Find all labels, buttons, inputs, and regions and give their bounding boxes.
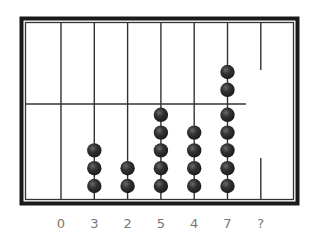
abacus-bead-upper: [220, 83, 234, 97]
abacus-bead-upper: [220, 65, 234, 79]
abacus-bead: [154, 108, 168, 122]
abacus-bead: [87, 179, 101, 193]
abacus-bead: [220, 161, 234, 175]
abacus-bead: [220, 125, 234, 139]
abacus-bead: [187, 125, 201, 139]
abacus-bead: [154, 143, 168, 157]
abacus-bead: [87, 161, 101, 175]
abacus-bead: [120, 179, 134, 193]
abacus-bead: [154, 179, 168, 193]
abacus-bead: [187, 179, 201, 193]
abacus-bead: [187, 143, 201, 157]
abacus-bead: [220, 143, 234, 157]
column-label: 2: [123, 216, 131, 231]
column-label: 0: [57, 216, 65, 231]
abacus-bead: [220, 108, 234, 122]
abacus-bead: [154, 125, 168, 139]
column-label: 3: [90, 216, 98, 231]
abacus-bead: [154, 161, 168, 175]
abacus-diagram: 032547?: [0, 0, 330, 247]
column-label: 5: [157, 216, 165, 231]
column-label: ?: [257, 216, 264, 231]
abacus-bead: [220, 179, 234, 193]
column-label: 4: [190, 216, 198, 231]
abacus-bead: [120, 161, 134, 175]
abacus-bead: [87, 143, 101, 157]
abacus-bead: [187, 161, 201, 175]
column-label: 7: [223, 216, 231, 231]
